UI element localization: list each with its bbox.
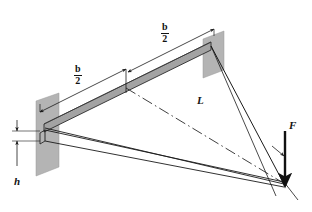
label-span-upper-denominator: 2 [161,34,169,44]
label-span-lower-numerator: b [74,64,82,74]
structural-diagram-figure: b 2 b 2 L h F [0,0,312,212]
label-span-upper-numerator: b [161,22,169,32]
label-height-h: h [14,176,20,187]
wall-plate-left [36,93,59,176]
label-span-lower: b 2 [74,64,82,86]
label-span-lower-denominator: 2 [74,76,82,86]
force-leader [272,146,284,156]
diagram-canvas [0,0,312,212]
wall-plate-right [203,31,224,78]
label-length-L: L [197,95,204,106]
label-span-upper: b 2 [161,22,169,44]
main-beam [44,42,211,132]
label-force-F: F [289,120,296,131]
centerline-L [126,88,285,184]
lower-member [40,130,284,187]
